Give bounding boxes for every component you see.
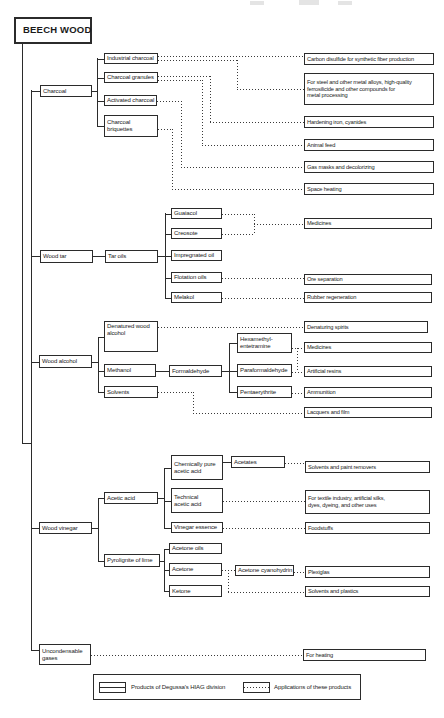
connector-dashed	[158, 76, 210, 77]
node-plexiglas: Plexiglas	[305, 566, 430, 578]
connector-solid	[93, 256, 105, 257]
connector-solid	[229, 371, 237, 372]
node-ammunition: Ammunition	[304, 387, 432, 398]
node-charcoal-granules: Charcoal granules	[104, 72, 158, 83]
connector-solid	[164, 528, 171, 529]
crop-artifact	[299, 0, 319, 5]
connector-solid	[164, 468, 171, 469]
connector-dashed	[193, 392, 194, 413]
connector-solid	[223, 462, 231, 463]
node-gas-masks: Gas masks and decolorizing	[304, 161, 434, 173]
node-lacquers-film: Lacquers and film	[304, 407, 432, 418]
connector-dashed	[222, 298, 304, 299]
node-for-steel: For steel and other metal alloys, high-q…	[304, 73, 434, 105]
connector-dashed	[158, 56, 304, 57]
connector-solid	[31, 650, 39, 651]
connector-solid	[229, 343, 237, 344]
node-uncondensable-gases: Uncondensable gases	[39, 644, 91, 665]
node-methanol: Methanol	[104, 364, 156, 377]
node-denatured-wood-alcohol: Denatured wood alcohol	[104, 321, 158, 352]
connector-dashed	[237, 60, 238, 89]
node-tar-oils: Tar oils	[105, 250, 158, 263]
connector-dashed	[181, 167, 304, 168]
connector-dashed	[237, 89, 304, 90]
node-pyrolignite-of-lime: Pyrolignite of lime	[104, 554, 160, 567]
node-wood-vinegar: Wood vinegar	[39, 522, 92, 534]
connector-solid	[97, 126, 104, 127]
connector-dashed	[91, 655, 303, 656]
connector-solid	[22, 44, 23, 443]
connector-dashed	[158, 80, 202, 81]
connector-solid	[164, 501, 171, 502]
connector-solid	[31, 362, 39, 363]
connector-dashed	[202, 145, 304, 146]
connector-solid	[222, 371, 229, 372]
connector-dashed	[222, 278, 304, 279]
connector-dashed	[157, 101, 181, 102]
connector-dashed	[254, 224, 304, 225]
crop-artifact	[250, 1, 264, 5]
node-guaiacol: Guaiacol	[171, 208, 222, 219]
node-animal-feed: Animal feed	[304, 139, 434, 151]
connector-solid	[158, 256, 165, 257]
node-pentaerythrite: Pentaerythrite	[237, 386, 292, 398]
node-medicines-tar: Medicines	[304, 218, 432, 229]
node-foodstuffs: Foodstuffs	[305, 522, 430, 534]
legend-products-label: Products of Degussa's HIAG division	[131, 675, 225, 699]
node-acetates: Acetates	[231, 456, 285, 468]
node-artificial-resins: Artificial resins	[304, 366, 432, 377]
node-charcoal-briquettes: Charcoal briquettes	[104, 115, 158, 137]
connector-dashed	[223, 501, 305, 502]
connector-dashed	[297, 348, 298, 372]
node-creosote: Creosote	[171, 228, 222, 239]
node-acetic-acid: Acetic acid	[104, 492, 158, 504]
node-solvents-paint-removers: Solvents and paint removers	[305, 461, 430, 473]
connector-dashed	[222, 214, 254, 215]
node-vinegar-essence: Vinegar essence	[171, 522, 223, 533]
connector-solid	[229, 392, 237, 393]
legend-dashed-sample	[243, 682, 270, 693]
connector-dashed	[158, 60, 237, 61]
node-ketone: Ketone	[169, 585, 222, 597]
connector-solid	[229, 343, 230, 392]
node-ore-separation: Ore separation	[304, 274, 432, 285]
connector-dashed	[228, 570, 229, 592]
node-hexamethylentetramine: Hexamethyl- entetramine	[237, 333, 292, 353]
node-wood-tar: Wood tar	[40, 250, 93, 263]
node-paraformaldehyde: Paraformaldehyde	[237, 364, 292, 377]
connector-dashed	[223, 528, 305, 529]
connector-solid	[97, 59, 104, 60]
connector-dashed	[193, 413, 304, 414]
node-formaldehyde: Formaldehyde	[169, 365, 222, 377]
connector-dashed	[202, 80, 203, 145]
node-melakol: Melakol	[171, 292, 222, 303]
connector-solid	[97, 101, 104, 102]
solid-line-icon	[100, 687, 125, 688]
node-flotation-oils: Flotation oils	[171, 272, 222, 283]
connector-solid	[98, 337, 99, 392]
connector-dashed	[222, 234, 254, 235]
node-carbon-disulfide: Carbon disulfide for synthetic fiber pro…	[304, 53, 434, 65]
legend-solid-sample	[99, 682, 126, 693]
crop-artifact	[338, 1, 352, 5]
connector-dashed	[181, 101, 182, 167]
node-denaturing-spirits: Denaturing spirits	[304, 321, 428, 333]
connector-dashed	[292, 372, 304, 373]
legend: Products of Degussa's HIAG division Appl…	[93, 674, 361, 700]
connector-solid	[164, 468, 165, 528]
connector-solid	[97, 58, 98, 126]
connector-solid	[97, 78, 104, 79]
connector-dashed	[210, 122, 304, 123]
beech-wood-products-diagram: Products of Degussa's HIAG division Appl…	[0, 0, 444, 718]
node-for-heating: For heating	[303, 649, 426, 661]
connector-dashed	[158, 392, 193, 393]
connector-dashed	[285, 463, 305, 464]
connector-dashed	[158, 129, 172, 130]
node-acetone-oils: Acetone oils	[169, 543, 222, 554]
node-space-heating: Space heating	[304, 183, 434, 195]
dashed-line-icon	[244, 687, 269, 688]
node-solvents-plastics: Solvents and plastics	[305, 586, 430, 597]
connector-solid	[156, 371, 169, 372]
connector-dashed	[294, 572, 305, 573]
connector-dashed	[228, 592, 305, 593]
